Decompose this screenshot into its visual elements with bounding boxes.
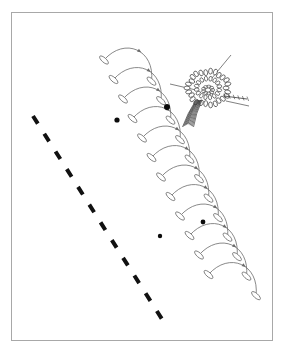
- flower-bract-inner: [208, 76, 212, 81]
- flower-bract-inner: [203, 95, 207, 100]
- style-spike-tick: [247, 97, 249, 101]
- dashed-reference-line-stroke: [33, 116, 167, 327]
- point-marker: [114, 117, 119, 122]
- point-marker: [201, 220, 206, 225]
- leader-line: [226, 101, 249, 106]
- leader-line: [170, 84, 196, 90]
- flower-bract: [184, 86, 190, 90]
- point-marker: [158, 234, 162, 238]
- flower-bract: [208, 102, 212, 108]
- flower-bract: [203, 69, 207, 75]
- flower-bract: [208, 68, 212, 74]
- flower-bract-inner: [208, 95, 212, 100]
- dashed-reference-line: [33, 116, 167, 327]
- flower-bract: [203, 100, 207, 106]
- thistle-flower-head: [183, 68, 249, 127]
- flower-bract: [223, 86, 229, 90]
- point-marker: [164, 104, 170, 110]
- figure-canvas: [0, 0, 285, 354]
- flower-bract: [198, 69, 204, 76]
- flower-bract-inner: [204, 76, 208, 81]
- figure-root: [0, 0, 285, 354]
